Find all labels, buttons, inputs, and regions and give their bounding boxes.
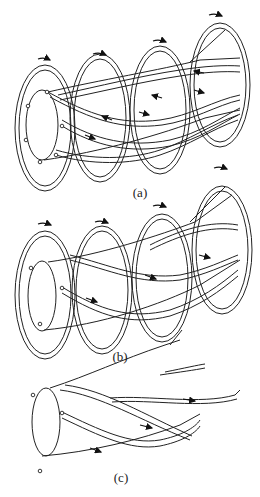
helical-strands-b [62,187,238,320]
coil-rings-a [15,23,250,191]
bundle-end-a [26,90,58,160]
bundle-end-b [28,261,56,331]
panel-label-c: (c) [114,470,128,486]
panel-c [31,330,240,473]
helical-strands-a [48,30,240,163]
panel-a [15,14,250,191]
diagram-canvas [0,0,260,497]
bundle-end-c [32,388,60,456]
panel-label-a: (a) [133,185,147,201]
helical-strands-c [60,330,240,447]
panel-label-b: (b) [112,349,127,365]
